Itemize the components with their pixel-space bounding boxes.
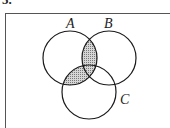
venn-figure: 5. A B C [0, 0, 170, 128]
set-b-label: B [104, 16, 113, 31]
set-a-label: A [65, 16, 75, 31]
venn-diagram: A B C [0, 0, 170, 128]
set-c-label: C [120, 92, 130, 107]
question-number: 5. [2, 0, 12, 8]
